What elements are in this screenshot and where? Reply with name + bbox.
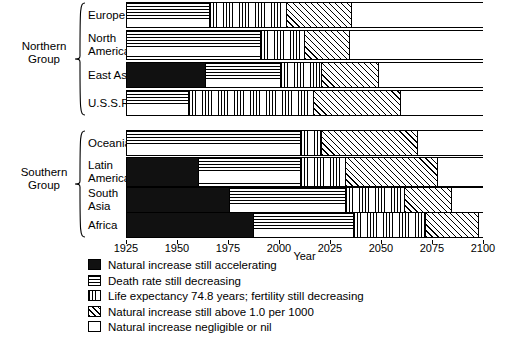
bar-segment-stage-4 — [417, 131, 484, 155]
bar-segment-stage-3 — [345, 158, 437, 186]
bar-segment-stage-3 — [286, 3, 351, 27]
bar-segment-stage-2 — [280, 63, 321, 87]
bar-segment-stage-3 — [313, 91, 401, 115]
legend-label: Natural increase still above 1.0 per 100… — [108, 305, 314, 319]
legend-item: Natural increase still above 1.0 per 100… — [88, 305, 488, 319]
legend-label: Life expectancy 74.8 years; fertility st… — [108, 289, 364, 303]
bar-east-asia — [126, 62, 483, 88]
bar-segment-stage-3 — [304, 31, 349, 59]
bar-segment-stage-1 — [127, 131, 300, 155]
legend-swatch-diagonal-hatch — [88, 306, 101, 317]
bar-segment-stage-2 — [345, 188, 404, 212]
legend-item: Natural increase negligible or nil — [88, 320, 488, 334]
legend-swatch-solid-black — [88, 259, 101, 270]
bar-segment-stage-0 — [127, 63, 205, 87]
bar-europe — [126, 2, 483, 28]
bar-segment-stage-2 — [300, 158, 345, 186]
bar-segment-stage-0 — [127, 158, 198, 186]
legend-item: Life expectancy 74.8 years; fertility st… — [88, 289, 488, 303]
bar-segment-stage-2 — [209, 3, 287, 27]
bar-segment-stage-1 — [229, 188, 345, 212]
bar-segment-stage-1 — [253, 213, 353, 237]
bar-segment-stage-3 — [425, 213, 478, 237]
bar-north-america — [126, 30, 483, 60]
bar-segment-stage-2 — [260, 31, 305, 59]
bar-segment-stage-4 — [400, 91, 484, 115]
population-transition-chart: NorthernGroup SouthernGroup EuropeNorthA… — [0, 0, 507, 346]
bar-segment-stage-3 — [404, 188, 451, 212]
legend-item: Death rate still decreasing — [88, 274, 488, 288]
legend-swatch-vertical-lines — [88, 290, 101, 301]
bar-segment-stage-0 — [127, 188, 229, 212]
legend-swatch-white-empty — [88, 321, 101, 332]
bar-segment-stage-1 — [127, 31, 260, 59]
bar-segment-stage-4 — [349, 31, 484, 59]
bar-segment-stage-4 — [378, 63, 484, 87]
bar-segment-stage-4 — [351, 3, 484, 27]
legend-label: Natural increase still accelerating — [108, 258, 277, 272]
legend-item: Natural increase still accelerating — [88, 258, 488, 272]
group-brace-southern — [74, 130, 86, 238]
legend-swatch-horizontal-lines — [88, 275, 101, 286]
legend-label: Death rate still decreasing — [108, 274, 241, 288]
bar-u-s-s-r — [126, 90, 483, 116]
bar-segment-stage-1 — [205, 63, 280, 87]
bar-africa — [126, 212, 483, 238]
legend-label: Natural increase negligible or nil — [108, 320, 272, 334]
bar-segment-stage-1 — [198, 158, 300, 186]
bar-latin-america — [126, 157, 483, 187]
bar-segment-stage-2 — [300, 131, 320, 155]
bar-segment-stage-2 — [353, 213, 424, 237]
bar-segment-stage-4 — [478, 213, 484, 237]
bar-segment-stage-1 — [127, 91, 188, 115]
bar-south-asia — [126, 187, 483, 213]
bar-segment-stage-2 — [188, 91, 312, 115]
bar-segment-stage-3 — [321, 131, 417, 155]
legend: Natural increase still acceleratingDeath… — [88, 258, 488, 336]
group-brace-northern — [74, 2, 86, 116]
x-axis: 19251950197520002025205020752100 — [126, 240, 483, 250]
bar-segment-stage-4 — [451, 188, 484, 212]
bar-segment-stage-0 — [127, 213, 253, 237]
bar-segment-stage-4 — [437, 158, 484, 186]
plot-area — [126, 0, 483, 240]
bar-segment-stage-3 — [321, 63, 378, 87]
bar-segment-stage-1 — [127, 3, 209, 27]
bar-oceania — [126, 130, 483, 156]
